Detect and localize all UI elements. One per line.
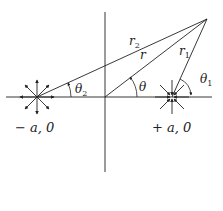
r-line — [105, 19, 207, 97]
r-label: r — [140, 48, 147, 62]
r2-line — [37, 19, 207, 97]
source-icon — [20, 80, 54, 114]
r2-label: r2 — [129, 34, 140, 50]
r1-label: r1 — [179, 44, 190, 60]
source-sink-diagram: r2 r r1 θ2 θ θ1 − a, 0 + a, 0 — [0, 0, 223, 211]
minus-a-label: − a, 0 — [15, 120, 54, 135]
theta2-label: θ2 — [75, 82, 87, 98]
theta2-arc — [68, 83, 71, 97]
theta-arc — [130, 77, 137, 97]
theta1-label: θ1 — [200, 72, 212, 88]
theta-label: θ — [139, 80, 147, 94]
plus-a-label: + a, 0 — [152, 120, 191, 135]
